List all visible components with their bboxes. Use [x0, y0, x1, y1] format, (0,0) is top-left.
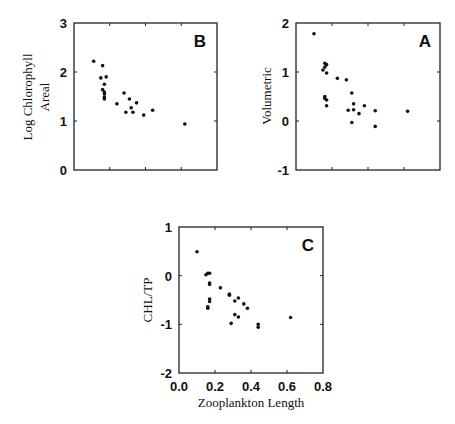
data-point	[104, 75, 108, 79]
y-tick-label: -1	[160, 317, 172, 332]
data-point	[128, 97, 132, 101]
data-point	[131, 110, 135, 114]
data-point	[325, 71, 329, 75]
data-point	[325, 98, 329, 102]
data-point	[350, 91, 354, 95]
data-point	[208, 271, 212, 275]
data-point	[124, 110, 128, 114]
data-point	[92, 59, 96, 63]
data-point	[195, 250, 199, 254]
x-tick-label: 0.8	[314, 379, 332, 394]
data-point	[350, 121, 354, 125]
data-point	[183, 122, 187, 126]
data-point	[208, 300, 212, 304]
data-point	[237, 315, 241, 319]
data-point	[363, 104, 367, 108]
y-tick-label: 2	[282, 16, 289, 31]
y-tick-label: 1	[165, 220, 172, 235]
data-point	[325, 104, 329, 108]
x-tick-label: 0.2	[206, 379, 224, 394]
data-point	[142, 113, 146, 117]
data-point	[323, 65, 327, 69]
panel-b-ylabel-line2: Areal	[37, 82, 52, 111]
panel-b-ylabel-line1: Log Chlorophyll	[20, 53, 35, 140]
panel-b-label: B	[194, 32, 206, 51]
data-point	[233, 313, 237, 317]
y-tick-label: 1	[282, 65, 289, 80]
y-tick-label: 0	[282, 114, 289, 129]
data-point	[208, 283, 212, 287]
figure: 0123 Log Chlorophyll Areal B -1012 Volum…	[0, 0, 455, 424]
data-point	[101, 64, 105, 68]
panel-a-label: A	[419, 32, 431, 51]
data-point	[135, 101, 139, 105]
data-point	[237, 296, 241, 300]
y-tick-label: 0	[165, 269, 172, 284]
data-point	[406, 109, 410, 113]
y-tick-label: 3	[60, 16, 67, 31]
y-tick-label: -1	[277, 163, 289, 178]
panel-c-xlabel: Zooplankton Length	[198, 395, 305, 410]
data-point	[219, 286, 223, 290]
data-point	[246, 306, 250, 310]
data-point	[229, 322, 233, 326]
data-point	[312, 32, 316, 36]
panel-c-ylabel: CHL/TP	[140, 278, 155, 323]
x-tick-label: 0.0	[170, 379, 188, 394]
data-point	[206, 306, 210, 310]
data-point	[336, 77, 340, 81]
data-point	[357, 112, 361, 116]
data-point	[151, 108, 155, 112]
data-point	[103, 97, 107, 101]
x-tick-label: 0.4	[242, 379, 261, 394]
data-point	[345, 78, 349, 82]
data-point	[289, 316, 293, 320]
data-point	[99, 76, 103, 80]
y-tick-label: -2	[160, 366, 172, 381]
data-point	[373, 109, 377, 113]
data-point	[373, 125, 377, 129]
data-point	[228, 293, 232, 297]
data-point	[352, 108, 356, 112]
data-point	[115, 102, 119, 106]
y-tick-label: 2	[60, 65, 67, 80]
y-tick-label: 0	[60, 163, 67, 178]
panel-a-ylabel: Volumetric	[259, 67, 274, 125]
data-point	[346, 108, 350, 112]
y-tick-label: 1	[60, 114, 67, 129]
data-point	[129, 106, 133, 110]
data-point	[256, 325, 260, 329]
data-point	[242, 302, 246, 306]
panel-c-label: C	[302, 236, 314, 255]
data-point	[122, 91, 126, 95]
data-point	[233, 299, 237, 303]
panel-a-chart: -1012	[277, 16, 440, 178]
x-tick-label: 0.6	[278, 379, 296, 394]
data-point	[352, 102, 356, 106]
data-point	[103, 82, 107, 86]
